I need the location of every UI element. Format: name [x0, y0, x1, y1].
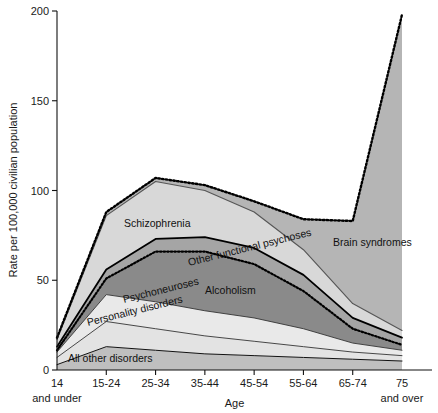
y-tick-label: 100	[31, 185, 49, 197]
x-tick-label-second-line: and under	[32, 392, 82, 404]
x-tick-label: 25-34	[142, 377, 170, 389]
y-tick-label: 0	[43, 364, 49, 376]
x-tick-label: 35-44	[191, 377, 219, 389]
x-tick-label: 14	[51, 377, 63, 389]
band-label-schizophrenia: Schizophrenia	[124, 217, 191, 229]
y-axis-title: Rate per 100,000 civilian population	[7, 103, 19, 278]
y-tick-label: 200	[31, 5, 49, 17]
x-tick-label-second-line: and over	[381, 392, 424, 404]
band-label-brain-syndromes: Brain syndromes	[333, 236, 412, 248]
stacked-area-chart: 05010015020014and under15-2425-3435-4445…	[0, 0, 438, 413]
x-tick-label: 75	[396, 377, 408, 389]
band-label-alcoholism: Alcoholism	[205, 284, 256, 296]
band-label-all-other-disorders: All other disorders	[68, 352, 153, 364]
x-tick-label: 45-54	[240, 377, 268, 389]
chart-container: 05010015020014and under15-2425-3435-4445…	[0, 0, 438, 413]
x-tick-label: 15-24	[92, 377, 120, 389]
x-tick-label: 55-64	[289, 377, 317, 389]
y-tick-label: 150	[31, 95, 49, 107]
y-tick-label: 50	[37, 274, 49, 286]
x-tick-label: 65-74	[339, 377, 367, 389]
x-axis-title: Age	[225, 397, 245, 409]
